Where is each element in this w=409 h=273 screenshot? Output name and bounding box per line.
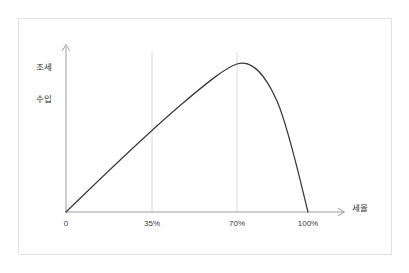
xtick-label-70: 70% [222, 219, 252, 229]
y-axis-title-line1: 조세 [36, 62, 52, 73]
y-axis-title: 조세 수입 [36, 41, 52, 125]
xtick-label-100: 100% [290, 219, 326, 229]
laffer-curve-path [66, 63, 308, 212]
y-axis-title-line2: 수입 [36, 94, 52, 105]
xtick-label-35: 35% [137, 219, 167, 229]
x-axis-title: 세율 [352, 203, 368, 214]
laffer-curve-plot [0, 0, 409, 273]
xtick-label-0: 0 [56, 219, 76, 229]
figure-root: 조세 수입 세율 0 35% 70% 100% [0, 0, 409, 273]
